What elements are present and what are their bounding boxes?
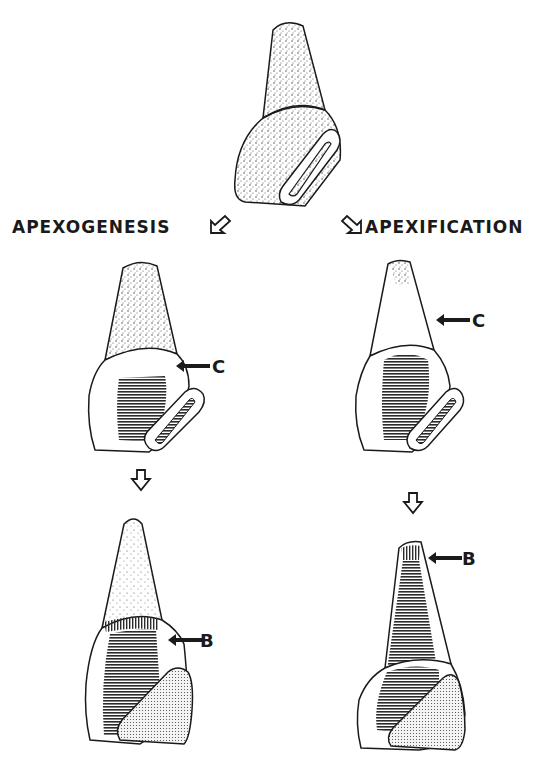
label-b-apexification: B: [462, 548, 477, 569]
solid-arrow-left-icon: [428, 552, 462, 564]
solid-arrow-left-icon: [436, 314, 470, 326]
label-c-apexogenesis: C: [212, 356, 226, 377]
outline-arrow-down-icon: [403, 492, 423, 514]
apexification-heading: APEXIFICATION: [365, 217, 524, 237]
label-c-apexification: C: [472, 310, 486, 331]
outline-arrow-down-icon: [131, 469, 151, 491]
immature-tooth-illustration: [225, 10, 345, 210]
outline-arrow-down-left-icon: [208, 214, 232, 236]
outline-arrow-down-right-icon: [340, 214, 364, 236]
apexification-pulpectomy-tooth: [350, 256, 480, 456]
apexogenesis-heading: APEXOGENESIS: [12, 217, 170, 237]
apexogenesis-pulpotomy-tooth: [85, 256, 215, 456]
label-b-apexogenesis: B: [200, 630, 215, 651]
solid-arrow-left-icon: [176, 360, 210, 372]
solid-arrow-left-icon: [168, 634, 202, 646]
